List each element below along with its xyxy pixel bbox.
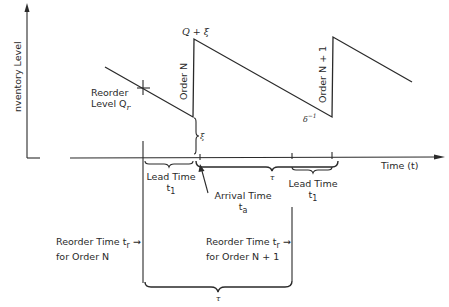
reorder-time-n-label: Reorder Time tr → for Order N	[56, 236, 141, 262]
tau-brace-upper	[196, 161, 338, 171]
lead-time-2-line2: t1	[288, 189, 338, 204]
arrival-time-line2: ta	[213, 201, 273, 216]
peak-label: Q + ξ	[182, 26, 209, 37]
reorder-time-n1-label: Reorder Time tr → for Order N + 1	[206, 236, 291, 262]
order-n1-text: Order N + 1	[317, 46, 328, 103]
x-axis	[70, 157, 437, 158]
y-axis-arrowhead	[25, 3, 30, 12]
arrival-time-label: Arrival Time ta	[213, 190, 273, 216]
order-n1-label: Order N + 1	[317, 46, 328, 103]
reorder-time-n1-subscript: r	[276, 241, 279, 250]
reorder-time-n-line2: for Order N	[56, 251, 141, 262]
reorder-time-n-subscript: r	[126, 241, 129, 250]
lead-time-2-subscript: 1	[312, 194, 317, 203]
arrival-time-arrowhead	[199, 164, 205, 172]
arrival-time-subscript: a	[242, 206, 247, 215]
tau-lower-label: τ	[216, 293, 220, 304]
lead-time-1-label: Lead Time t1	[146, 171, 196, 197]
tau-lower-text: τ	[216, 294, 220, 303]
right-arrow-icon: →	[283, 236, 291, 247]
reorder-level-line2: Level Qr	[91, 98, 130, 113]
y-axis-label-text: nventory Level	[12, 41, 23, 112]
order-n-text: Order N	[178, 63, 189, 100]
reorder-time-n1-line2: for Order N + 1	[206, 251, 291, 262]
reorder-level-label: Reorder Level Qr	[91, 87, 130, 113]
arrival-time-line1: Arrival Time	[213, 190, 273, 201]
tau-brace-lower	[145, 281, 292, 292]
reorder-time-n-text: Reorder Time t	[56, 236, 126, 247]
right-arrow-icon: →	[133, 236, 141, 247]
x-axis-label-text: Time (t)	[381, 160, 418, 171]
order-n-label: Order N	[178, 63, 189, 100]
reorder-time-n1-text: Reorder Time t	[206, 236, 276, 247]
tau-upper-label: τ	[270, 172, 274, 183]
lead-time-brace-1	[145, 161, 193, 167]
inventory-level-line	[105, 37, 412, 117]
tau-upper-text: τ	[270, 173, 274, 182]
x-axis-label: Time (t)	[381, 160, 418, 171]
peak-label-text: Q + ξ	[182, 26, 209, 37]
x-axis-arrowhead	[434, 155, 445, 160]
reorder-level-text: Level Q	[91, 98, 127, 109]
safety-stock-text: ξ	[200, 132, 204, 141]
lead-time-2-line1: Lead Time	[288, 178, 338, 189]
safety-stock-label: ξ	[200, 131, 204, 142]
reorder-level-subscript: r	[127, 103, 131, 112]
slope-exponent: −1	[308, 112, 317, 119]
safety-stock-brace	[194, 118, 199, 154]
y-axis-label: nventory Level	[12, 41, 23, 112]
lead-time-1-line1: Lead Time	[146, 171, 196, 182]
slope-label: δ−1	[303, 110, 317, 125]
arrival-time-pointer	[202, 171, 208, 193]
reorder-time-n1-line1: Reorder Time tr →	[206, 236, 291, 251]
lead-time-2-label: Lead Time t1	[288, 178, 338, 204]
lead-time-1-line2: t1	[146, 182, 196, 197]
lead-time-brace-2	[292, 167, 332, 173]
reorder-level-line1: Reorder	[91, 87, 130, 98]
lead-time-1-subscript: 1	[170, 187, 175, 196]
reorder-time-n-line1: Reorder Time tr →	[56, 236, 141, 251]
